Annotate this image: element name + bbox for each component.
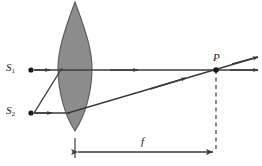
focal-length-label: f (141, 136, 144, 147)
s2-diagonal-segment (34, 68, 62, 113)
image-point-dot (213, 67, 219, 73)
source-2-dot (28, 110, 33, 115)
ray-from-source-2-diagonal (34, 68, 62, 113)
source-1-dot (28, 67, 33, 72)
s2-refracted-arrow-end (232, 57, 258, 64)
s2-refracted-arrow-mid (150, 78, 186, 89)
source-2-label-subscript: 2 (12, 110, 16, 118)
source-1-label: S1 (6, 62, 15, 73)
source-1-label-subscript: 1 (12, 67, 16, 75)
ray-from-source-2-refracted (68, 57, 258, 113)
source-1-label-text: S (6, 61, 12, 73)
source-2-label: S2 (6, 105, 15, 116)
diagram-canvas (0, 0, 262, 166)
source-2-label-text: S (6, 104, 12, 116)
optics-ray-diagram: S1 S2 P f (0, 0, 262, 166)
image-point-label: P (213, 52, 220, 63)
